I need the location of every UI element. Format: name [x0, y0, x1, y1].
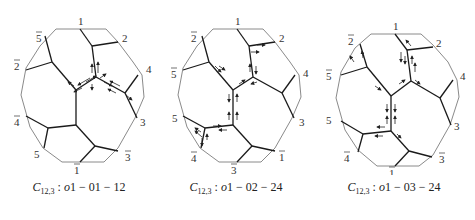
caption-sep: : [55, 180, 64, 194]
svg-text:1: 1 [78, 15, 84, 27]
svg-text:5: 5 [172, 112, 178, 124]
polyhedron-graph-2: 1 2 4 3 1 3 4 5 5 2 [157, 0, 315, 175]
svg-text:4: 4 [14, 116, 20, 128]
svg-text:1: 1 [393, 20, 399, 32]
caption-symbol: C [33, 180, 41, 194]
diagram-panel-1: 1 2 4 3 3 1 5 4 2 5 C12,3 : o1 − 01 − 12 [0, 0, 158, 220]
caption-subscript: 12,3 [41, 187, 55, 196]
svg-text:4: 4 [303, 67, 309, 79]
svg-text:3: 3 [140, 116, 146, 128]
svg-text:5: 5 [171, 68, 177, 80]
svg-text:4: 4 [146, 63, 152, 75]
caption-text: 1 − 01 − 12 [70, 180, 126, 194]
svg-text:5: 5 [326, 114, 332, 126]
svg-text:3: 3 [439, 153, 445, 165]
caption-subscript: 12,3 [198, 187, 212, 196]
svg-text:1: 1 [279, 151, 285, 163]
caption-symbol: C [348, 180, 356, 194]
svg-text:4: 4 [460, 70, 466, 82]
polyhedron-graph-3: 1 2 4 3 3 1 4 5 5 2 [315, 0, 473, 175]
flow-arrows [68, 62, 132, 100]
caption-3: C12,3 : o1 − 03 − 24 [315, 180, 473, 196]
caption-1: C12,3 : o1 − 01 − 12 [0, 180, 158, 196]
svg-text:1: 1 [235, 15, 241, 27]
caption-text: 1 − 03 − 24 [385, 180, 441, 194]
svg-text:5: 5 [34, 148, 40, 160]
svg-text:2: 2 [191, 32, 197, 44]
caption-symbol: C [190, 180, 198, 194]
svg-text:2: 2 [348, 35, 354, 47]
caption-sep: : [370, 180, 379, 194]
svg-text:5: 5 [36, 32, 42, 44]
svg-text:1: 1 [74, 164, 80, 175]
svg-text:3: 3 [454, 120, 460, 132]
diagram-panel-3: 1 2 4 3 3 1 4 5 5 2 C12,3 : o1 − 03 − 24 [315, 0, 473, 220]
svg-text:2: 2 [14, 60, 20, 72]
vertex-labels: 1 2 4 3 3 1 5 4 2 5 [14, 15, 152, 175]
svg-text:3: 3 [125, 151, 131, 163]
svg-text:3: 3 [231, 164, 237, 175]
svg-text:3: 3 [299, 116, 305, 128]
diagram-panel-2: 1 2 4 3 1 3 4 5 5 2 C12,3 : o1 − 02 − 24 [157, 0, 315, 220]
svg-text:5: 5 [326, 70, 332, 82]
svg-text:1: 1 [389, 167, 395, 175]
svg-text:2: 2 [279, 32, 285, 44]
svg-text:2: 2 [122, 32, 128, 44]
svg-text:4: 4 [191, 152, 197, 164]
polyhedron-graph-1: 1 2 4 3 3 1 5 4 2 5 [0, 0, 158, 175]
caption-2: C12,3 : o1 − 02 − 24 [157, 180, 315, 196]
svg-text:4: 4 [344, 152, 350, 164]
caption-subscript: 12,3 [356, 187, 370, 196]
caption-sep: : [212, 180, 221, 194]
svg-text:2: 2 [436, 37, 442, 49]
caption-text: 1 − 02 − 24 [227, 180, 283, 194]
